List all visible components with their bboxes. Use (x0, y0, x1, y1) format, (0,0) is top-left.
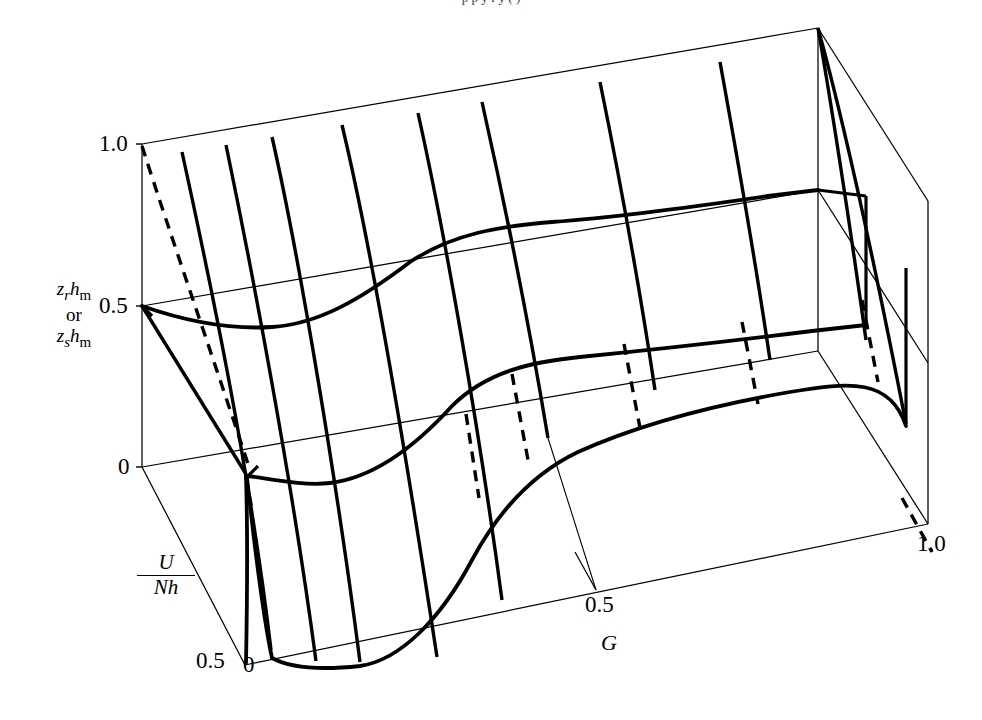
rib-g-0.11 (226, 145, 316, 661)
y-tick-label-1.0: 1.0 (99, 131, 128, 157)
rib-g-0.25 (342, 125, 437, 657)
surface-profile-curves (142, 190, 906, 668)
notch-mid-left (248, 466, 258, 476)
profile-curve-u-0 (142, 190, 818, 328)
gridline-z-0.5-back (142, 190, 818, 306)
x-axis-name: G (601, 630, 617, 656)
depth-tick-label-0.5: 0.5 (196, 648, 225, 674)
x-tick-label-1.0: 1.0 (917, 531, 946, 557)
y-axis-name-line3: zshm (20, 325, 128, 351)
gridline-right-z-0-depth (818, 351, 928, 524)
profile-curve-u-0.5-front-spike (246, 476, 247, 663)
rib-g-1.0 (818, 28, 866, 340)
rib-hidden-g-0 (142, 146, 250, 470)
x-tick-label-0.5: 0.5 (585, 592, 614, 618)
profile-curve-u-0.25 (248, 325, 866, 484)
y-axis-hm-symbol: h (70, 278, 80, 299)
rib-g-1.0-front (818, 28, 906, 424)
surface-ribs-hidden-dashed (142, 146, 932, 552)
rib-g-0.65 (600, 82, 655, 390)
depth-axis-denominator: Nh (137, 577, 195, 599)
y-tick-label-0.5: 0.5 (99, 293, 128, 319)
y-tick-label-0: 0 (118, 454, 130, 480)
gridline-right-z-0.5-depth (818, 190, 928, 363)
rib-g-0.35 (418, 113, 502, 600)
rib-hidden-g-0.5 (512, 374, 528, 460)
depth-axis-name: U Nh (137, 552, 195, 599)
rib-g-0.5 (482, 102, 548, 438)
floor-depth-line-g-0.5 (548, 438, 596, 590)
x-tick-label-0: 0 (243, 652, 255, 678)
figure-canvas: p p y f y ( ) (0, 0, 982, 720)
rib-g-0.175 (272, 137, 360, 662)
rib-hidden-g-0.65 (624, 344, 640, 428)
floor-interior-gridlines (548, 438, 596, 590)
y-axis-hm-subscript: m (80, 287, 92, 303)
y-axis-hm-symbol-2: h (70, 325, 80, 346)
surface-plot-svg (0, 0, 982, 720)
rib-g-0.8 (720, 62, 770, 360)
depth-axis-numerator: U (137, 552, 195, 574)
box-edge-back-top (142, 28, 818, 144)
box-edge-right-top-depth (818, 28, 928, 201)
y-axis-hm-subscript-2: m (80, 334, 92, 350)
